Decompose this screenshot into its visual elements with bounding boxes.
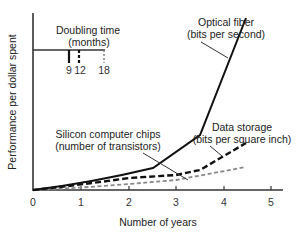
optical-fiber-label-line1: Optical fiber: [198, 16, 255, 28]
silicon-label-line2: (number of transistors): [55, 140, 161, 152]
doubling-value-9: 9: [66, 64, 72, 76]
chart: 0 1 2 3 4 5 Number of years Performance …: [0, 0, 308, 245]
doubling-title-line1: Doubling time: [56, 24, 120, 36]
x-axis-label: Number of years: [119, 216, 197, 228]
doubling-value-12: 12: [74, 64, 86, 76]
x-tick-3: 3: [173, 196, 179, 208]
optical-fiber-label-line2: (bits per second): [187, 28, 265, 40]
silicon-label-line1: Silicon computer chips: [55, 128, 160, 140]
x-tick-4: 4: [221, 196, 227, 208]
data-storage-label-line1: Data storage: [212, 121, 272, 133]
doubling-value-18: 18: [98, 64, 110, 76]
x-tick-0: 0: [30, 196, 36, 208]
optical-fiber-pointer: [201, 42, 228, 58]
y-axis-label: Performance per dollar spent: [6, 34, 18, 169]
data-storage-pointer: [210, 146, 222, 156]
series-optical-fiber-line: [33, 18, 246, 190]
x-tick-labels: 0 1 2 3 4 5: [30, 196, 274, 208]
doubling-title-line2: (months): [68, 36, 109, 48]
x-tick-1: 1: [78, 196, 84, 208]
x-tick-5: 5: [268, 196, 274, 208]
data-storage-label-line2: (bits per square inch): [193, 133, 292, 145]
x-tick-2: 2: [126, 196, 132, 208]
